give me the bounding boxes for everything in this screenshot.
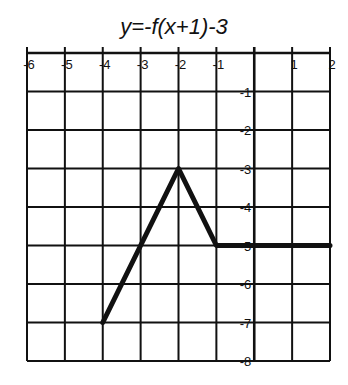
tick-label: -7 (240, 316, 252, 331)
tick-label: -5 (61, 57, 73, 72)
tick-label: -1 (213, 57, 225, 72)
tick-label: -1 (240, 85, 252, 100)
tick-label: -4 (99, 57, 111, 72)
tick-label: -3 (137, 57, 149, 72)
plot-area: -6-5-4-3-2-112-1-2-3-4-5-6-7-8 (0, 0, 348, 385)
tick-label: 2 (328, 57, 335, 72)
tick-label: -6 (23, 57, 35, 72)
tick-label: -6 (240, 277, 252, 292)
grid-lines (27, 47, 330, 361)
tick-label: -2 (240, 123, 252, 138)
tick-label: -8 (240, 354, 252, 369)
tick-label: -4 (240, 200, 252, 215)
tick-label: -2 (175, 57, 187, 72)
tick-label: -3 (240, 162, 252, 177)
tick-label: 1 (291, 57, 298, 72)
